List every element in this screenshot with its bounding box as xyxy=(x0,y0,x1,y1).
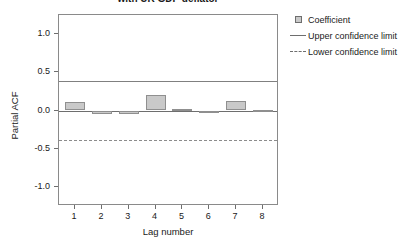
bar-lag-7 xyxy=(226,101,246,111)
square-marker xyxy=(295,16,302,23)
y-tick xyxy=(54,186,58,187)
x-tick xyxy=(235,205,236,209)
plot-inner xyxy=(59,15,277,204)
x-tick-label: 8 xyxy=(252,211,272,221)
bar-lag-1 xyxy=(65,102,85,110)
bar-lag-3 xyxy=(119,111,139,115)
plot-area xyxy=(58,14,278,205)
bar-lag-2 xyxy=(92,111,112,115)
legend-item-label: Upper confidence limit xyxy=(308,31,397,41)
x-tick-label: 3 xyxy=(118,211,138,221)
x-tick xyxy=(181,205,182,209)
y-tick xyxy=(54,110,58,111)
legend-item: Upper confidence limit xyxy=(288,28,406,43)
x-tick-label: 1 xyxy=(64,211,84,221)
legend-item: Lower confidence limit xyxy=(288,44,406,59)
x-tick-label: 6 xyxy=(198,211,218,221)
bar-lag-8 xyxy=(253,110,273,112)
legend-item-label: Coefficient xyxy=(308,15,350,25)
x-tick-label: 2 xyxy=(91,211,111,221)
x-tick-label: 4 xyxy=(145,211,165,221)
chart-title: with UK GDP deflator xyxy=(58,0,278,4)
solid-line xyxy=(290,35,306,36)
y-tick-label: 0.0 xyxy=(18,105,50,115)
x-tick xyxy=(74,205,75,209)
x-tick xyxy=(208,205,209,209)
y-tick-label: -0.5 xyxy=(18,143,50,153)
legend-item-label: Lower confidence limit xyxy=(308,47,397,57)
y-tick-label: -1.0 xyxy=(18,181,50,191)
x-tick xyxy=(155,205,156,209)
x-tick xyxy=(128,205,129,209)
square-marker-icon xyxy=(288,16,308,23)
x-tick-label: 5 xyxy=(171,211,191,221)
lower-confidence-limit-line xyxy=(59,140,277,141)
x-tick xyxy=(101,205,102,209)
legend-item: Coefficient xyxy=(288,12,406,27)
dashed-line-icon xyxy=(288,51,308,52)
y-tick xyxy=(54,71,58,72)
bar-lag-5 xyxy=(172,109,192,111)
x-tick-label: 7 xyxy=(225,211,245,221)
x-tick xyxy=(262,205,263,209)
partial-acf-chart: with UK GDP deflator Partial ACF Lag num… xyxy=(0,0,406,245)
y-tick-label: 1.0 xyxy=(18,28,50,38)
y-tick xyxy=(54,33,58,34)
x-axis-title: Lag number xyxy=(58,226,278,237)
upper-confidence-limit-line xyxy=(59,81,277,82)
y-tick xyxy=(54,148,58,149)
bar-lag-6 xyxy=(199,111,219,113)
solid-line-icon xyxy=(288,35,308,36)
chart-legend: CoefficientUpper confidence limitLower c… xyxy=(288,12,406,60)
y-tick-label: 0.5 xyxy=(18,66,50,76)
bar-lag-4 xyxy=(146,95,166,110)
dashed-line xyxy=(290,51,306,52)
